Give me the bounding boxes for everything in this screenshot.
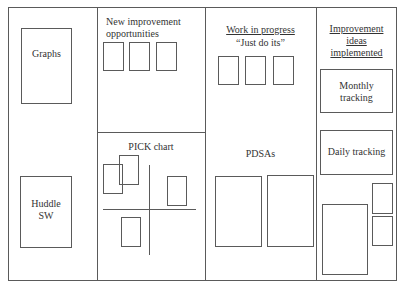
implemented-card-small <box>372 183 393 214</box>
graphs-panel: Graphs <box>21 28 72 104</box>
pick-chart-vertical-axis <box>149 165 150 255</box>
monthly-label: Monthly <box>321 80 392 92</box>
opportunity-card <box>129 42 150 71</box>
new-improvement-title-line1: New improvement <box>106 16 181 28</box>
pick-card <box>167 176 187 206</box>
improvement-ideas-title-line3: implemented <box>316 47 397 59</box>
opportunity-card <box>156 42 177 71</box>
wip-card <box>273 56 294 85</box>
section-divider-col2 <box>97 132 205 133</box>
graphs-label: Graphs <box>22 48 71 60</box>
improvement-ideas-title-line2: ideas <box>316 35 397 47</box>
pick-chart-horizontal-axis <box>103 209 196 210</box>
work-in-progress-title: Work in progress <box>205 24 316 36</box>
monthly-tracking-box: Monthly tracking <box>320 69 393 113</box>
implemented-card-small <box>372 216 393 246</box>
implemented-card-large <box>322 204 368 275</box>
wip-card <box>218 56 239 85</box>
opportunity-card <box>103 42 124 71</box>
pdsa-card <box>267 175 314 247</box>
pick-chart-title: PICK chart <box>97 141 205 153</box>
just-do-its-subtitle: “Just do its” <box>205 37 316 49</box>
pick-card <box>121 217 141 247</box>
tracking-label: tracking <box>321 92 392 104</box>
pdsa-card <box>215 176 262 247</box>
daily-tracking-label: Daily tracking <box>321 146 392 158</box>
pick-card <box>119 155 139 185</box>
daily-tracking-box: Daily tracking <box>320 130 393 175</box>
new-improvement-title-line2: opportunities <box>106 28 159 40</box>
pdsas-title: PDSAs <box>205 148 316 160</box>
huddle-sw-panel: Huddle SW <box>20 176 72 248</box>
huddle-label: Huddle <box>21 198 71 210</box>
sw-label: SW <box>21 210 71 222</box>
improvement-ideas-title-line1: Improvement <box>316 23 397 35</box>
wip-card <box>245 56 266 85</box>
